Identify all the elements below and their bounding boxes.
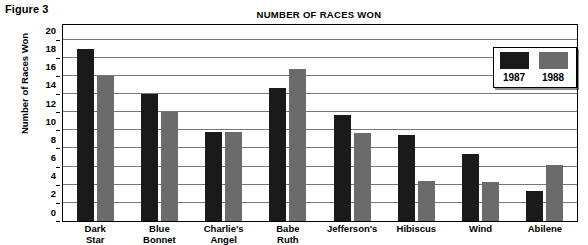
legend-swatch-1987 [500, 52, 529, 69]
bar-1988 [289, 69, 306, 221]
x-tick-label-line1: Dark [85, 223, 106, 234]
bar-1987 [141, 94, 158, 221]
y-tick-label: 0 [51, 208, 56, 218]
y-tick-mark [56, 221, 60, 222]
y-tick-label: 16 [45, 63, 56, 73]
x-tick-label-line2: Star [63, 235, 127, 245]
bar-group [127, 25, 191, 221]
y-axis-ticks: 02468101214161820 [34, 24, 60, 222]
x-tick-label: Abilene [513, 224, 577, 235]
legend-swatch-1988 [539, 52, 568, 69]
bar-1987 [526, 191, 543, 221]
bar-1987 [462, 154, 479, 221]
x-tick-label: BlueBonnet [127, 224, 191, 245]
legend-label-1987: 1987 [499, 72, 529, 83]
x-tick-label-line1: Charlie's [204, 223, 244, 234]
y-tick-mark [56, 130, 60, 131]
y-tick-label: 4 [51, 171, 56, 181]
bar-1988 [354, 133, 371, 221]
y-tick-label: 10 [45, 117, 56, 127]
x-tick-label: Charlie'sAngel [192, 224, 256, 245]
y-tick-mark [56, 94, 60, 95]
x-tick-label-line1: Babe [276, 223, 299, 234]
x-tick-label: Wind [449, 224, 513, 235]
x-tick-label-line2: Ruth [256, 235, 320, 245]
legend-swatches [494, 52, 576, 69]
y-tick-mark [56, 148, 60, 149]
bar-group [320, 25, 384, 221]
y-tick-label: 6 [51, 153, 56, 163]
bar-1988 [418, 181, 435, 221]
y-tick-mark [56, 58, 60, 59]
legend-labels: 1987 1988 [494, 72, 576, 86]
x-tick-label-line2: Angel [192, 235, 256, 245]
y-tick-label: 8 [51, 135, 56, 145]
x-tick-label: BabeRuth [256, 224, 320, 245]
bar-1987 [77, 49, 94, 221]
chart-legend: 1987 1988 [493, 47, 577, 88]
x-tick-label-line1: Wind [469, 223, 492, 234]
bar-1987 [205, 132, 222, 221]
bar-1988 [546, 165, 563, 221]
y-tick-label: 2 [51, 190, 56, 200]
bar-1988 [225, 132, 242, 221]
bar-1987 [398, 135, 415, 221]
x-tick-label-line1: Hibiscus [397, 223, 437, 234]
x-tick-label-line1: Abilene [528, 223, 562, 234]
y-tick-mark [56, 76, 60, 77]
y-tick-label: 20 [45, 26, 56, 36]
y-tick-mark [56, 167, 60, 168]
bar-1988 [482, 182, 499, 221]
y-tick-label: 18 [45, 44, 56, 54]
bar-1987 [334, 115, 351, 221]
x-tick-label: Hibiscus [384, 224, 448, 235]
x-tick-label-line2: Bonnet [127, 235, 191, 245]
y-axis-title: Number of Races Won [19, 4, 30, 164]
bar-group [256, 25, 320, 221]
bar-1988 [97, 76, 114, 221]
y-tick-label: 12 [45, 99, 56, 109]
y-tick-mark [56, 112, 60, 113]
x-axis-labels: DarkStarBlueBonnetCharlie'sAngelBabeRuth… [63, 224, 577, 242]
y-tick-mark [56, 185, 60, 186]
y-tick-mark [56, 40, 60, 41]
bar-1987 [269, 88, 286, 221]
chart-title: NUMBER OF RACES WON [60, 9, 578, 20]
bar-group [63, 25, 127, 221]
bar-group [384, 25, 448, 221]
x-tick-label: DarkStar [63, 224, 127, 245]
bar-1988 [161, 112, 178, 221]
x-tick-label: Jefferson's [320, 224, 384, 235]
y-tick-label: 14 [45, 81, 56, 91]
bar-group [192, 25, 256, 221]
legend-label-1988: 1988 [538, 72, 568, 83]
y-tick-mark [56, 203, 60, 204]
x-tick-label-line1: Blue [149, 223, 170, 234]
x-tick-label-line1: Jefferson's [327, 223, 377, 234]
